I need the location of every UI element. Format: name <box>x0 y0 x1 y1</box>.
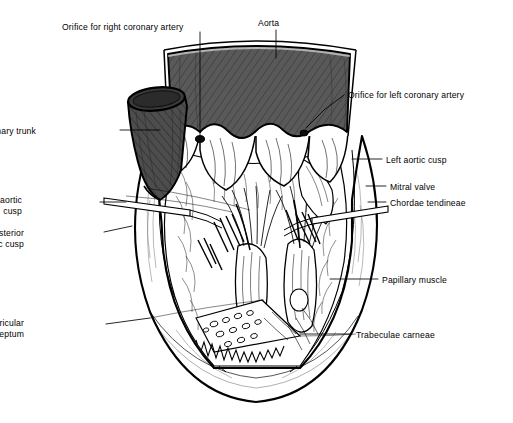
label-interventricular-septum: Interventricular septum <box>0 318 24 339</box>
label-posterior-aortic-cusp: Posterior aortic cusp <box>0 228 24 249</box>
aorta <box>164 41 356 138</box>
label-pulmonary-trunk: Pulmonary trunk <box>0 126 36 137</box>
label-trabeculae-carneae: Trabeculae carneae <box>356 330 435 341</box>
leader-posterior-aortic-cusp <box>104 226 132 232</box>
label-aorta: Aorta <box>258 18 279 29</box>
label-chordae-tendineae: Chordae tendineae <box>390 198 466 209</box>
left-coronary-orifice-marker <box>300 130 308 136</box>
heart-dissection-illustration <box>0 0 513 423</box>
leader-interventricular-septum <box>106 318 150 324</box>
anatomical-figure: Orifice for right coronary arteryAortaOr… <box>0 0 513 423</box>
label-orifice-left-coronary-artery: Orifice for left coronary artery <box>348 90 464 101</box>
label-orifice-right-coronary-artery: Orifice for right coronary artery <box>62 22 183 33</box>
label-right-aortic-cusp: Right aortic cusp <box>0 195 22 216</box>
label-mitral-valve: Mitral valve <box>390 182 435 193</box>
label-papillary-muscle: Papillary muscle <box>382 275 447 286</box>
label-left-aortic-cusp: Left aortic cusp <box>386 155 447 166</box>
